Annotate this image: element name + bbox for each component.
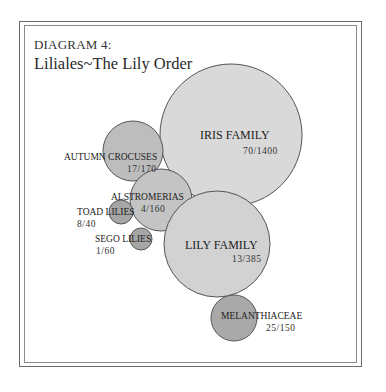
- label-autumn-crocuses: AUTUMN CROCUSES: [64, 152, 157, 163]
- ratio-autumn-crocuses: 17/170: [127, 164, 156, 175]
- bubble-diagram: [0, 0, 386, 392]
- label-toad-lilies: TOAD LILIES: [77, 207, 135, 218]
- ratio-toad-lilies: 8/40: [77, 219, 96, 230]
- ratio-sego-lilies: 1/60: [96, 246, 115, 257]
- ratio-iris-family: 70/1400: [243, 146, 278, 157]
- ratio-lily-family: 13/385: [232, 254, 261, 265]
- label-iris-family: IRIS FAMILY: [200, 128, 270, 142]
- ratio-alstromerias: 4/160: [141, 204, 165, 215]
- label-melanthiaceae: MELANTHIACEAE: [221, 311, 302, 322]
- label-lily-family: LILY FAMILY: [185, 238, 258, 252]
- label-sego-lilies: SEGO LILIES: [95, 234, 151, 245]
- ratio-melanthiaceae: 25/150: [266, 323, 295, 334]
- label-alstromerias: ALSTROMERIAS: [111, 192, 184, 203]
